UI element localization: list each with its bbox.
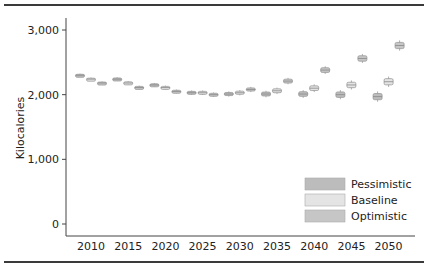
x-tick-label: 2025 bbox=[189, 240, 217, 253]
box-optimistic bbox=[98, 81, 107, 85]
box-optimistic bbox=[358, 54, 367, 63]
x-tick-label: 2010 bbox=[77, 240, 105, 253]
x-tick-label: 2035 bbox=[263, 240, 291, 253]
box-optimistic bbox=[321, 66, 330, 74]
y-tick-label: 3,000 bbox=[28, 24, 60, 37]
box-baseline bbox=[384, 77, 393, 87]
legend-label-optimistic: Optimistic bbox=[351, 210, 407, 223]
legend-label-pessimistic: Pessimistic bbox=[351, 178, 411, 191]
legend-swatch-pessimistic bbox=[305, 178, 345, 190]
y-tick-label: 1,000 bbox=[28, 153, 60, 166]
box-baseline bbox=[198, 90, 207, 95]
box-optimistic bbox=[284, 78, 293, 84]
box-baseline bbox=[87, 78, 96, 82]
box-plot-chart: 01,0002,0003,000201020152020202520302035… bbox=[0, 0, 430, 269]
legend-swatch-optimistic bbox=[305, 210, 345, 222]
plot-marks bbox=[76, 40, 405, 101]
x-tick-label: 2015 bbox=[114, 240, 142, 253]
box-pessimistic bbox=[336, 90, 345, 99]
box-baseline bbox=[347, 80, 356, 89]
x-tick-label: 2030 bbox=[226, 240, 254, 253]
box-optimistic bbox=[246, 87, 255, 92]
box-pessimistic bbox=[373, 91, 382, 101]
y-tick-label: 0 bbox=[52, 218, 59, 231]
x-tick-label: 2050 bbox=[375, 240, 403, 253]
box-pessimistic bbox=[187, 90, 196, 95]
box-pessimistic bbox=[262, 91, 271, 97]
y-tick-label: 2,000 bbox=[28, 89, 60, 102]
box-baseline bbox=[124, 81, 133, 85]
box-pessimistic bbox=[113, 77, 122, 81]
x-tick-label: 2040 bbox=[300, 240, 328, 253]
box-optimistic bbox=[395, 40, 404, 50]
box-pessimistic bbox=[76, 74, 85, 78]
box-baseline bbox=[273, 88, 282, 94]
legend: PessimisticBaselineOptimistic bbox=[305, 178, 411, 223]
box-optimistic bbox=[172, 89, 181, 93]
box-pessimistic bbox=[299, 90, 308, 98]
box-optimistic bbox=[135, 86, 144, 90]
legend-swatch-baseline bbox=[305, 194, 345, 206]
x-tick-label: 2020 bbox=[151, 240, 179, 253]
box bbox=[76, 74, 85, 77]
box-baseline bbox=[161, 86, 170, 90]
box-pessimistic bbox=[150, 83, 159, 87]
y-axis-title: Kilocalories bbox=[14, 96, 27, 159]
box-baseline bbox=[235, 90, 244, 95]
legend-label-baseline: Baseline bbox=[351, 194, 398, 207]
box-pessimistic bbox=[224, 91, 233, 96]
box bbox=[98, 82, 107, 85]
box-baseline bbox=[310, 84, 319, 92]
box-optimistic bbox=[209, 92, 218, 97]
box bbox=[87, 78, 96, 81]
x-tick-label: 2045 bbox=[337, 240, 365, 253]
